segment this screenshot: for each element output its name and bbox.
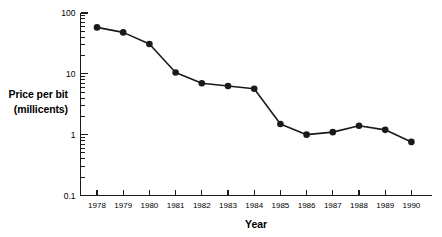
chart-canvas: 1001010.1 197819791980198119821983198419… — [0, 0, 442, 237]
data-point-marker — [94, 24, 101, 31]
x-tick-label: 1978 — [88, 201, 106, 210]
data-point-marker — [382, 127, 389, 134]
data-point-marker — [408, 139, 415, 146]
data-point-marker — [356, 122, 363, 129]
data-point-marker — [330, 129, 337, 136]
x-tick-label: 1982 — [193, 201, 211, 210]
x-tick-label: 1980 — [141, 201, 159, 210]
data-point-marker — [277, 121, 284, 128]
y-tick-label: 0.1 — [64, 191, 76, 201]
x-axis-ticks — [97, 190, 411, 196]
data-point-marker — [172, 69, 179, 76]
y-tick-label: 10 — [66, 69, 76, 79]
price-per-bit-line-chart: 1001010.1 197819791980198119821983198419… — [0, 0, 442, 237]
x-tick-label: 1985 — [272, 201, 290, 210]
x-tick-label: 1979 — [114, 201, 132, 210]
x-tick-label: 1983 — [219, 201, 237, 210]
data-point-marker — [225, 83, 232, 90]
y-axis-ticks — [81, 13, 88, 196]
x-tick-label: 1981 — [167, 201, 185, 210]
x-tick-label: 1990 — [403, 201, 421, 210]
data-point-marker — [303, 131, 310, 138]
series-line-price-per-bit — [97, 27, 411, 142]
y-tick-label: 100 — [61, 8, 75, 18]
data-point-marker — [199, 80, 206, 87]
x-tick-label: 1984 — [245, 201, 263, 210]
y-axis-title-line1: Price per bit — [9, 88, 69, 100]
x-axis-tick-labels: 1978197919801981198219831984198519861987… — [88, 201, 421, 210]
x-axis-title: Year — [245, 218, 267, 230]
y-tick-label: 1 — [71, 130, 76, 140]
axes-group — [81, 13, 433, 196]
y-axis-title-line2: (millicents) — [14, 103, 68, 115]
data-point-marker — [120, 29, 127, 36]
x-tick-label: 1986 — [298, 201, 316, 210]
x-tick-label: 1987 — [324, 201, 342, 210]
data-point-marker — [146, 41, 153, 48]
data-series-group — [94, 24, 415, 145]
x-tick-label: 1988 — [350, 201, 368, 210]
x-tick-label: 1989 — [376, 201, 394, 210]
data-point-marker — [251, 85, 258, 92]
